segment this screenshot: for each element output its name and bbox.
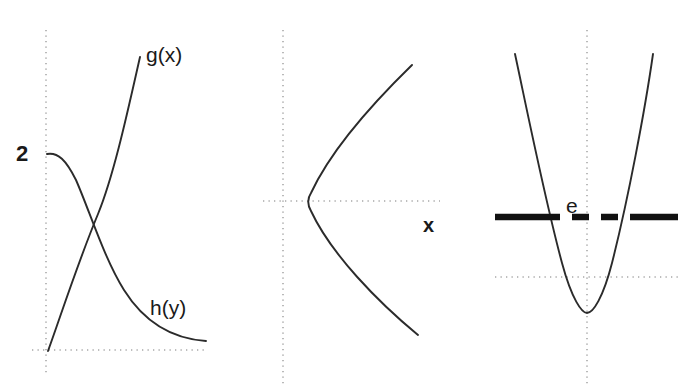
variable-label-x: x <box>423 215 434 235</box>
panel-left <box>32 30 206 376</box>
curve-label-gx: g(x) <box>146 44 182 65</box>
level-label-e: e <box>566 195 578 216</box>
panel-middle-curve-sideways-parabola <box>308 65 418 335</box>
figure-canvas: 2 g(x) h(y) x e <box>0 0 691 387</box>
panel-right-curve-upward-parabola <box>515 54 653 313</box>
panel-middle <box>263 30 440 384</box>
vector-drawing-layer <box>0 0 691 387</box>
y-axis-value-2: 2 <box>16 143 28 165</box>
panel-right <box>495 30 678 384</box>
panel-left-curve-g <box>48 57 140 351</box>
curve-label-hy: h(y) <box>150 297 186 318</box>
